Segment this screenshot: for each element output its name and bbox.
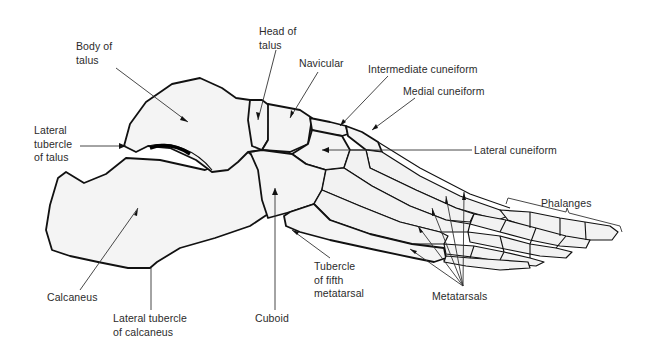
medial-cuneiform-bone	[346, 126, 382, 152]
label-navicular: Navicular	[299, 57, 344, 71]
label-medial-cuneiform: Medial cuneiform	[403, 85, 485, 99]
calcaneus-bone	[46, 152, 268, 268]
label-body-of-talus: Body of talus	[76, 40, 112, 67]
leader-navicular	[290, 72, 318, 118]
leader-intermediate-cuneiform	[340, 76, 388, 126]
label-intermediate-cuneiform: Intermediate cuneiform	[368, 63, 478, 77]
foot-skeleton-diagram: Body of talus Head of talus Navicular In…	[0, 0, 655, 351]
label-tubercle-of-fifth-metatarsal: Tubercle of fifth metatarsal	[314, 260, 364, 301]
leader-medial-cuneiform	[372, 98, 415, 130]
label-lateral-cuneiform: Lateral cuneiform	[474, 144, 557, 158]
label-cuboid: Cuboid	[255, 312, 289, 326]
label-head-of-talus: Head of talus	[259, 25, 296, 52]
label-metatarsals: Metatarsals	[432, 290, 487, 304]
label-calcaneus: Calcaneus	[47, 291, 98, 305]
label-lateral-tubercle-of-calcaneus: Lateral tubercle of calcaneus	[113, 312, 187, 339]
label-lateral-tubercle-of-talus: Lateral tubercle of talus	[34, 124, 72, 165]
navicular-bone	[262, 104, 312, 152]
label-phalanges: Phalanges	[541, 197, 592, 211]
